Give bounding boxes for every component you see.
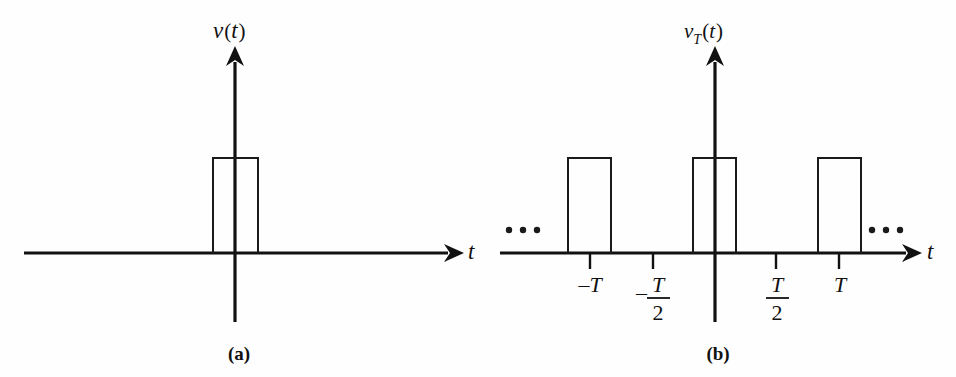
y-axis-label-a-close: ) bbox=[239, 19, 246, 43]
tick-label-T: T bbox=[834, 272, 848, 297]
x-axis-label-b: t bbox=[927, 239, 934, 264]
ellipsis-right-dot-3 bbox=[897, 227, 903, 233]
y-axis-label-b-close: ) bbox=[716, 19, 723, 43]
x-axis-b bbox=[500, 244, 922, 262]
y-axis-label-a-arg: t bbox=[231, 18, 238, 43]
ellipsis-right-dot-1 bbox=[869, 227, 875, 233]
ellipsis-left-dot-2 bbox=[520, 227, 526, 233]
y-axis-label-a: v(t) bbox=[213, 18, 246, 43]
y-axis-label-b-open: ( bbox=[702, 19, 709, 43]
y-axis-a bbox=[226, 46, 244, 322]
tick-label-T-over-2: T 2 bbox=[766, 272, 789, 325]
caption-b: (b) bbox=[706, 343, 729, 365]
y-axis-b bbox=[706, 46, 724, 322]
tick-label-minus-T-over-2-den: 2 bbox=[653, 300, 664, 325]
tick-label-minus-T-over-2: – T 2 bbox=[635, 272, 670, 325]
tick-label-minus-T-over-2-sign: – bbox=[635, 280, 648, 305]
y-axis-label-a-open: ( bbox=[224, 19, 231, 43]
y-axis-label-b-sub: T bbox=[693, 32, 702, 47]
y-axis-label-a-fn: v bbox=[213, 18, 224, 43]
pulse-rect-b-left bbox=[568, 158, 611, 253]
tick-label-T-over-2-den: 2 bbox=[772, 300, 783, 325]
caption-a: (a) bbox=[228, 343, 250, 365]
ellipsis-right-dot-2 bbox=[883, 227, 889, 233]
ellipsis-right bbox=[869, 227, 903, 233]
tick-label-minus-T-sym: T bbox=[589, 272, 603, 297]
x-axis-label-a: t bbox=[468, 239, 475, 264]
panel-b: –T – T 2 T 2 T vT(t) bbox=[478, 0, 956, 377]
tick-label-minus-T-over-2-num: T bbox=[652, 272, 666, 297]
x-axis-a bbox=[24, 244, 464, 262]
tick-label-minus-T: –T bbox=[577, 272, 603, 297]
tick-label-T-over-2-num: T bbox=[771, 272, 785, 297]
ellipsis-left-dot-3 bbox=[534, 227, 540, 233]
ellipsis-left bbox=[506, 227, 540, 233]
ellipsis-left-dot-1 bbox=[506, 227, 512, 233]
figure-root: v(t) t (a) –T – T bbox=[0, 0, 956, 377]
y-axis-label-b: vT(t) bbox=[684, 19, 723, 47]
pulse-rect-b-right bbox=[818, 158, 861, 253]
panel-a: v(t) t (a) bbox=[0, 0, 478, 377]
